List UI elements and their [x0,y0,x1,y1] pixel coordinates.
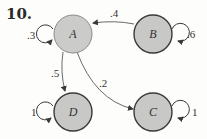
node-b: B [134,15,172,53]
node-a: A [54,15,92,53]
node-label-a: A [68,27,77,41]
problem-number: 10. [6,5,32,23]
node-c: C [134,93,172,131]
node-label-c: C [149,105,158,119]
node-d: D [54,93,92,131]
self-loop-label-a: .3 [27,29,36,41]
self-loop-a [36,25,53,43]
node-label-d: D [68,105,78,119]
self-loop-label-d: 1 [31,106,37,118]
self-loop-label-c: 1 [192,106,198,118]
self-loop-c [172,100,189,118]
edge-label-b-a: .4 [110,7,119,19]
self-loop-d [36,102,53,120]
edge-label-a-c: .2 [99,77,107,89]
edge-a-to-d [62,52,65,91]
self-loop-label-b: .6 [187,28,196,40]
edge-b-to-a [93,22,134,24]
markov-chain-diagram: 10. .4 .5 .2 .3 .6 1 1 A B C D [0,0,207,139]
node-label-b: B [149,27,157,41]
edge-label-a-d: .5 [51,67,60,79]
